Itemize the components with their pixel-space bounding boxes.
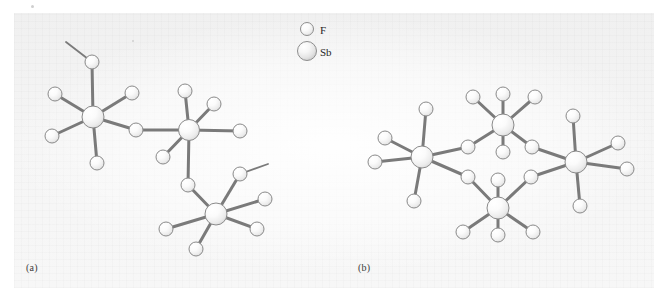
atom-f-bridging bbox=[524, 170, 538, 184]
atom-f bbox=[565, 151, 587, 173]
atom-f bbox=[205, 203, 227, 225]
atom-f bbox=[179, 120, 200, 141]
atom-f bbox=[611, 136, 625, 150]
atom-f bbox=[368, 155, 382, 169]
structure-a-atom-group bbox=[45, 55, 272, 256]
atom-f-bridging bbox=[461, 170, 475, 184]
legend-label-sb: Sb bbox=[320, 46, 332, 58]
atom-f-bridging bbox=[525, 140, 539, 154]
atom-f bbox=[156, 150, 170, 164]
atom-f bbox=[573, 199, 587, 213]
panel-label-b: (b) bbox=[358, 262, 370, 273]
atom-f bbox=[526, 225, 540, 239]
structure-a-bond-group bbox=[52, 42, 268, 249]
atom-f bbox=[159, 222, 173, 236]
atom-f bbox=[85, 55, 99, 69]
atom-f bbox=[258, 192, 272, 206]
atom-f bbox=[411, 146, 433, 168]
legend-icon-group bbox=[298, 23, 317, 61]
atom-f bbox=[496, 145, 510, 159]
atom-f bbox=[378, 131, 392, 145]
atom-f bbox=[466, 90, 480, 104]
atom-f bbox=[620, 162, 634, 176]
legend-label-f: F bbox=[320, 24, 326, 36]
atom-f bbox=[528, 90, 542, 104]
atom-f bbox=[233, 167, 247, 181]
legend-small-sphere-icon bbox=[301, 23, 314, 36]
atom-f-bridging bbox=[129, 123, 143, 137]
atom-f bbox=[82, 106, 104, 128]
panel-label-a: (a) bbox=[26, 262, 38, 273]
atom-f bbox=[492, 114, 514, 136]
atom-f bbox=[491, 228, 505, 242]
atom-f-bridging bbox=[461, 140, 475, 154]
figure-root: F Sb (a) (b) bbox=[0, 0, 668, 299]
atom-f bbox=[45, 129, 59, 143]
atom-f bbox=[566, 109, 580, 123]
atom-f bbox=[491, 173, 505, 187]
atom-f bbox=[496, 87, 510, 101]
atom-f bbox=[487, 197, 509, 219]
legend-large-sphere-icon bbox=[298, 42, 317, 61]
atom-f bbox=[456, 225, 470, 239]
atom-f bbox=[178, 84, 192, 98]
atom-f bbox=[207, 97, 221, 111]
atom-f bbox=[48, 87, 62, 101]
atom-f-bridging bbox=[181, 178, 195, 192]
atom-f bbox=[407, 194, 421, 208]
atom-f bbox=[250, 222, 264, 236]
atom-f bbox=[125, 86, 139, 100]
atom-f bbox=[419, 102, 433, 116]
atom-f bbox=[189, 242, 203, 256]
molecule-canvas bbox=[0, 0, 668, 299]
atom-f bbox=[233, 124, 247, 138]
atom-f bbox=[90, 156, 104, 170]
